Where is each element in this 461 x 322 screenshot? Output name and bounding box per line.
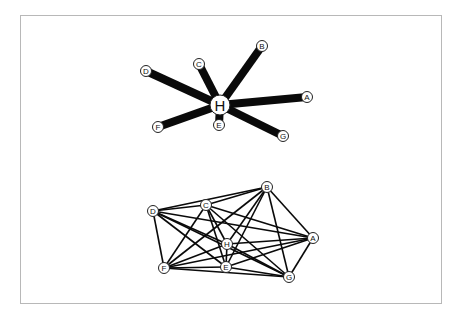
node-label: F (162, 264, 167, 273)
node-label: C (203, 201, 209, 210)
node-label: F (156, 123, 161, 132)
node-label: H (215, 97, 226, 114)
node-a: A (302, 92, 313, 103)
node-d: D (148, 206, 159, 217)
node-f: F (153, 122, 164, 133)
node-label: E (223, 263, 228, 272)
node-label: D (143, 67, 149, 76)
node-label: A (304, 93, 310, 102)
node-label: G (286, 273, 292, 282)
node-g: G (284, 272, 295, 283)
node-d: D (141, 66, 152, 77)
node-b: B (257, 41, 268, 52)
node-label: B (264, 183, 269, 192)
node-c: C (194, 59, 205, 70)
node-label: D (150, 207, 156, 216)
node-label: A (310, 234, 316, 243)
edge-e-f (164, 267, 226, 268)
node-h: H (210, 95, 230, 115)
node-e: E (221, 262, 232, 273)
node-a: A (308, 233, 319, 244)
node-label: G (280, 132, 286, 141)
node-label: H (224, 240, 230, 249)
node-g: G (278, 131, 289, 142)
node-b: B (262, 182, 273, 193)
node-label: E (216, 121, 221, 130)
figure-frame (21, 16, 442, 304)
node-f: F (159, 263, 170, 274)
node-label: C (196, 60, 202, 69)
node-e: E (214, 120, 225, 131)
node-h: H (222, 239, 233, 250)
node-c: C (201, 200, 212, 211)
network-figure: HABCDEFG ABCDEFGH (0, 0, 461, 322)
node-label: B (259, 42, 264, 51)
